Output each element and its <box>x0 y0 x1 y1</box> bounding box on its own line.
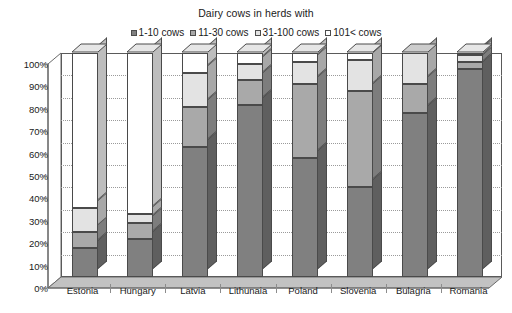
bar-segment-side <box>208 131 217 269</box>
bar-segment[interactable] <box>72 232 98 248</box>
bar-top-cap <box>237 44 274 54</box>
x-axis-separator <box>110 284 111 293</box>
y-axis-tick <box>43 220 48 221</box>
bar-segment[interactable] <box>182 53 208 73</box>
y-axis-tick <box>43 86 48 87</box>
y-axis-tick <box>43 153 48 154</box>
bar-segment-side <box>373 172 382 269</box>
x-axis: EstoniaHungaryLatviaLithunaiaPolandSlove… <box>0 283 512 303</box>
bar-top-cap <box>127 44 164 54</box>
legend-item-1-10-cows[interactable]: 1-10 cows <box>131 27 185 38</box>
legend-item-31-100-cows[interactable]: 31-100 cows <box>255 27 320 38</box>
bar-segment[interactable] <box>292 158 318 277</box>
bar-segment-side <box>428 98 437 269</box>
bar-segment-side <box>153 223 162 269</box>
bar-top-cap <box>72 44 109 54</box>
y-axis-tick <box>43 265 48 266</box>
bar-segment-side <box>318 69 327 151</box>
bar-segment[interactable] <box>127 214 153 223</box>
bar-segment[interactable] <box>237 64 263 80</box>
bar-series-group <box>61 53 502 277</box>
bar-segment[interactable] <box>347 53 373 60</box>
bar-segment[interactable] <box>182 73 208 107</box>
bar-segment[interactable] <box>127 53 153 214</box>
bar-segment[interactable] <box>72 248 98 277</box>
legend-swatch-31-100-cows <box>255 30 261 36</box>
bar-segment[interactable] <box>237 80 263 105</box>
bar-segment[interactable] <box>347 187 373 277</box>
legend-item-11-30-cows[interactable]: 11-30 cows <box>190 27 248 38</box>
bar-segment-side <box>98 37 107 199</box>
x-axis-label: Estonia <box>67 285 99 296</box>
bar-segment-side <box>373 75 382 179</box>
bar-segment-side <box>318 142 327 269</box>
y-axis-tick <box>43 131 48 132</box>
legend-item-101-cows[interactable]: 101< cows <box>325 27 381 38</box>
y-axis-tick <box>43 176 48 177</box>
x-axis-separator <box>165 284 166 293</box>
x-axis-label: Slovenia <box>340 285 376 296</box>
chart-legend: 1-10 cows 11-30 cows 31-100 cows 101< co… <box>0 27 512 38</box>
y-axis: 0%10%20%30%40%50%60%70%80%90%100% <box>0 0 60 313</box>
bar-segment-side <box>263 89 272 269</box>
x-axis-separator <box>220 284 221 293</box>
bar-segment[interactable] <box>347 91 373 187</box>
bar-top-cap <box>347 44 384 54</box>
bar-segment[interactable] <box>347 60 373 91</box>
x-axis-separator <box>441 284 442 293</box>
legend-label-101-cows: 101< cows <box>333 27 381 38</box>
bar-segment[interactable] <box>72 53 98 208</box>
x-axis-label: Hungary <box>120 285 156 296</box>
x-axis-label: Latvia <box>180 285 205 296</box>
bar-segment[interactable] <box>182 107 208 147</box>
x-axis-label: Lithunaia <box>229 285 268 296</box>
bar-segment-side <box>153 37 162 206</box>
bar-segment[interactable] <box>72 208 98 233</box>
bar-segment[interactable] <box>292 84 318 158</box>
bar-segment[interactable] <box>182 147 208 277</box>
bar-segment[interactable] <box>457 55 483 62</box>
bar-segment[interactable] <box>457 62 483 69</box>
bar-top-cap <box>182 44 219 54</box>
bar-segment[interactable] <box>457 69 483 277</box>
bar-segment[interactable] <box>292 62 318 84</box>
chart-title: Dairy cows in herds with <box>0 7 512 19</box>
x-axis-separator <box>276 284 277 293</box>
x-axis-separator <box>331 284 332 293</box>
legend-label-11-30-cows: 11-30 cows <box>198 27 248 38</box>
bar-top-cap <box>402 44 439 54</box>
bar-segment[interactable] <box>292 53 318 62</box>
y-axis-tick <box>43 108 48 109</box>
y-axis-tick <box>43 243 48 244</box>
bar-segment[interactable] <box>402 113 428 277</box>
bar-segment-side <box>483 53 492 269</box>
bar-segment[interactable] <box>237 53 263 64</box>
bar-segment[interactable] <box>127 239 153 277</box>
bar-top-cap <box>457 44 494 54</box>
bar-segment[interactable] <box>237 105 263 277</box>
x-axis-separator <box>386 284 387 293</box>
x-axis-label: Poland <box>288 285 318 296</box>
legend-swatch-1-10-cows <box>131 30 137 36</box>
legend-swatch-11-30-cows <box>190 30 196 36</box>
chart-container: Dairy cows in herds with 1-10 cows 11-30… <box>0 0 512 313</box>
legend-swatch-101-cows <box>325 30 331 36</box>
bar-top-cap <box>292 44 329 54</box>
bar-segment[interactable] <box>127 223 153 239</box>
bar-segment-side <box>208 91 217 139</box>
y-axis-tick <box>43 64 48 65</box>
y-axis-tick <box>43 198 48 199</box>
bar-segment[interactable] <box>402 84 428 113</box>
x-axis-label: Bulagria <box>396 285 431 296</box>
x-axis-label: Romania <box>449 285 487 296</box>
bar-segment[interactable] <box>402 53 428 84</box>
